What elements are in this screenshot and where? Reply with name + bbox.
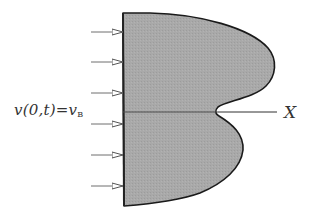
inflow-arrows xyxy=(91,32,123,186)
boundary-condition-label: v(0,t)=vB xyxy=(14,101,83,119)
deformed-body-shape xyxy=(123,13,275,206)
boundary-condition-main: v(0,t)=v xyxy=(14,101,77,119)
boundary-condition-subscript: B xyxy=(77,110,83,119)
x-axis-label: X xyxy=(284,102,296,122)
left-boundary-edge xyxy=(123,13,124,206)
